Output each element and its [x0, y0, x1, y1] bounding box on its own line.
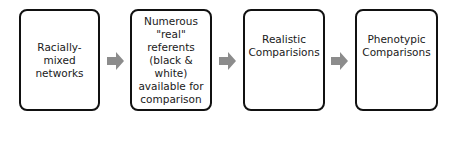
node-phenotypic-comparisons: Phenotypic Comparisons	[355, 9, 438, 111]
arrow-right-icon	[107, 52, 124, 70]
node-numerous-real-referents: Numerous "real" referents (black & white…	[130, 9, 212, 111]
arrow-right-icon	[219, 52, 236, 70]
arrow-right-icon	[331, 52, 348, 70]
node-racially-mixed-networks: Racially-mixed networks	[19, 9, 100, 111]
node-label: Phenotypic Comparisons	[362, 33, 430, 59]
node-label: Realistic Comparisions	[248, 33, 319, 59]
node-label: Racially-mixed networks	[25, 41, 94, 80]
node-label: Numerous "real" referents (black & white…	[138, 15, 203, 106]
node-realistic-comparisions: Realistic Comparisions	[243, 9, 325, 111]
